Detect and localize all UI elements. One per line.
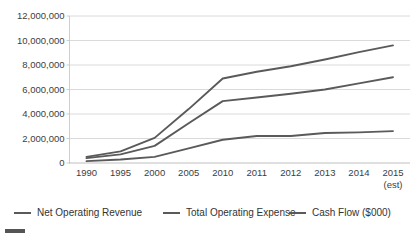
y-tick-label: 2,000,000 <box>22 133 64 144</box>
legend-label-2: Cash Flow ($000) <box>312 207 391 218</box>
page-corner-mark <box>5 229 25 233</box>
chart-canvas: 02,000,0004,000,0006,000,0008,000,00010,… <box>0 0 414 234</box>
y-tick-label: 6,000,000 <box>22 84 64 95</box>
x-tick-label-1990: 1990 <box>76 167 97 178</box>
x-tick-label-2015: 2015 <box>382 167 403 178</box>
legend-label-0: Net Operating Revenue <box>37 207 143 218</box>
x-tick-label-2012: 2012 <box>280 167 301 178</box>
x-tick-label-2010: 2010 <box>212 167 233 178</box>
line-chart: 02,000,0004,000,0006,000,0008,000,00010,… <box>0 0 414 234</box>
x-tick-label-2014: 2014 <box>348 167 369 178</box>
x-tick-label-2011: 2011 <box>247 167 267 178</box>
y-tick-label: 0 <box>59 157 64 168</box>
y-tick-label: 12,000,000 <box>17 10 65 21</box>
y-tick-label: 8,000,000 <box>22 59 64 70</box>
x-tick-label-2005: 2005 <box>178 167 199 178</box>
chart-legend: Net Operating RevenueTotal Operating Exp… <box>14 207 391 218</box>
x-tick-label-1995: 1995 <box>110 167 131 178</box>
y-tick-label: 4,000,000 <box>22 108 64 119</box>
y-tick-label: 10,000,000 <box>17 35 65 46</box>
x-tick-sublabel-2015: (est) <box>383 179 402 190</box>
legend-label-1: Total Operating Expense <box>186 207 296 218</box>
x-tick-label-2013: 2013 <box>314 167 335 178</box>
x-tick-label-2000: 2000 <box>144 167 165 178</box>
